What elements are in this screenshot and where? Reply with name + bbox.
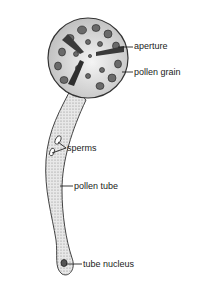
pollen-tube-shape xyxy=(46,85,86,275)
pollen-grain-shape xyxy=(48,18,128,98)
tube-nucleus-shape xyxy=(61,260,67,267)
label-pollen-tube: pollen tube xyxy=(74,181,118,191)
label-tube-nucleus: tube nucleus xyxy=(83,259,134,269)
label-sperms: sperms xyxy=(67,143,97,153)
label-pollen-grain: pollen grain xyxy=(134,67,181,77)
pollen-diagram xyxy=(0,0,201,287)
label-aperture: aperture xyxy=(134,41,168,51)
